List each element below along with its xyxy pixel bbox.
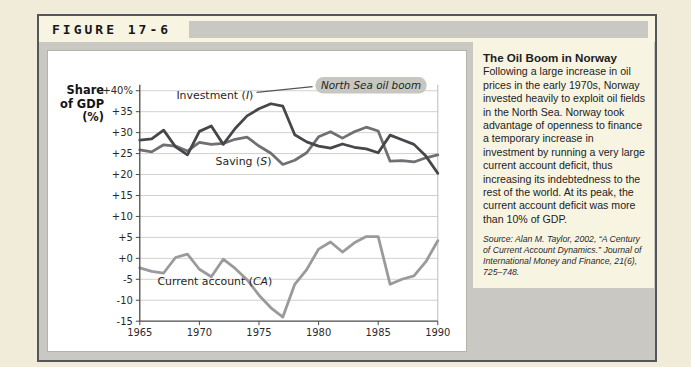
y-tick-label: +5	[118, 232, 133, 243]
x-tick-label: 1975	[246, 327, 271, 338]
annotations: Investment (I)Saving (S)Current account …	[157, 77, 426, 288]
line-chart: +40%+35+30+25+20+15+10+5+0-5-10-15196519…	[48, 51, 466, 351]
x-tick-label: 1990	[425, 327, 450, 338]
figure-box: FIGURE 17-6 +40%+35+30+25+20+15+10+5+0-5…	[37, 14, 657, 362]
y-tick-label: +35	[112, 106, 133, 117]
caption-source: Source: Alan M. Taylor, 2002, “A Century…	[483, 234, 645, 277]
y-tick-label: +30	[112, 127, 133, 138]
y-tick-label: -10	[117, 295, 133, 306]
y-tick-label: +10	[112, 211, 133, 222]
caption-body: Following a large increase in oil prices…	[483, 65, 645, 224]
x-tick-label: 1980	[306, 327, 331, 338]
series-label: Saving (S)	[216, 155, 272, 168]
y-tick-label: +25	[112, 148, 133, 159]
x-tick-label: 1985	[366, 327, 391, 338]
caption-panel: The Oil Boom in Norway Following a large…	[473, 42, 654, 288]
y-tick-label: +0	[118, 253, 133, 264]
y-axis-title-line: of GDP	[60, 97, 104, 111]
figure-label: FIGURE 17-6	[52, 22, 171, 37]
caption-title: The Oil Boom in Norway	[483, 51, 617, 64]
figure-header: FIGURE 17-6	[39, 16, 655, 42]
y-tick-label: +15	[112, 190, 133, 201]
y-tick-label: -15	[117, 316, 133, 327]
y-tick-label: -5	[123, 274, 133, 285]
y-axis-title-line: (%)	[82, 110, 104, 124]
x-tick-label: 1970	[187, 327, 212, 338]
y-axis-title-line: Share	[67, 83, 105, 97]
textbook-page: FIGURE 17-6 +40%+35+30+25+20+15+10+5+0-5…	[0, 0, 691, 367]
y-axis-title: Shareof GDP(%)	[60, 83, 104, 124]
y-tick-label: +40%	[102, 85, 132, 96]
caption-text: The Oil Boom in Norway Following a large…	[483, 51, 645, 226]
y-tick-label: +20	[112, 169, 133, 180]
series-label: Investment (I)	[176, 89, 253, 102]
annotation-pill-label: North Sea oil boom	[321, 79, 421, 91]
x-tick-label: 1965	[127, 327, 152, 338]
chart-panel: +40%+35+30+25+20+15+10+5+0-5-10-15196519…	[47, 50, 467, 352]
series-label: Current account (CA)	[157, 275, 272, 288]
axes	[136, 85, 438, 325]
header-bar	[189, 21, 648, 38]
annotation-connector	[257, 87, 313, 93]
